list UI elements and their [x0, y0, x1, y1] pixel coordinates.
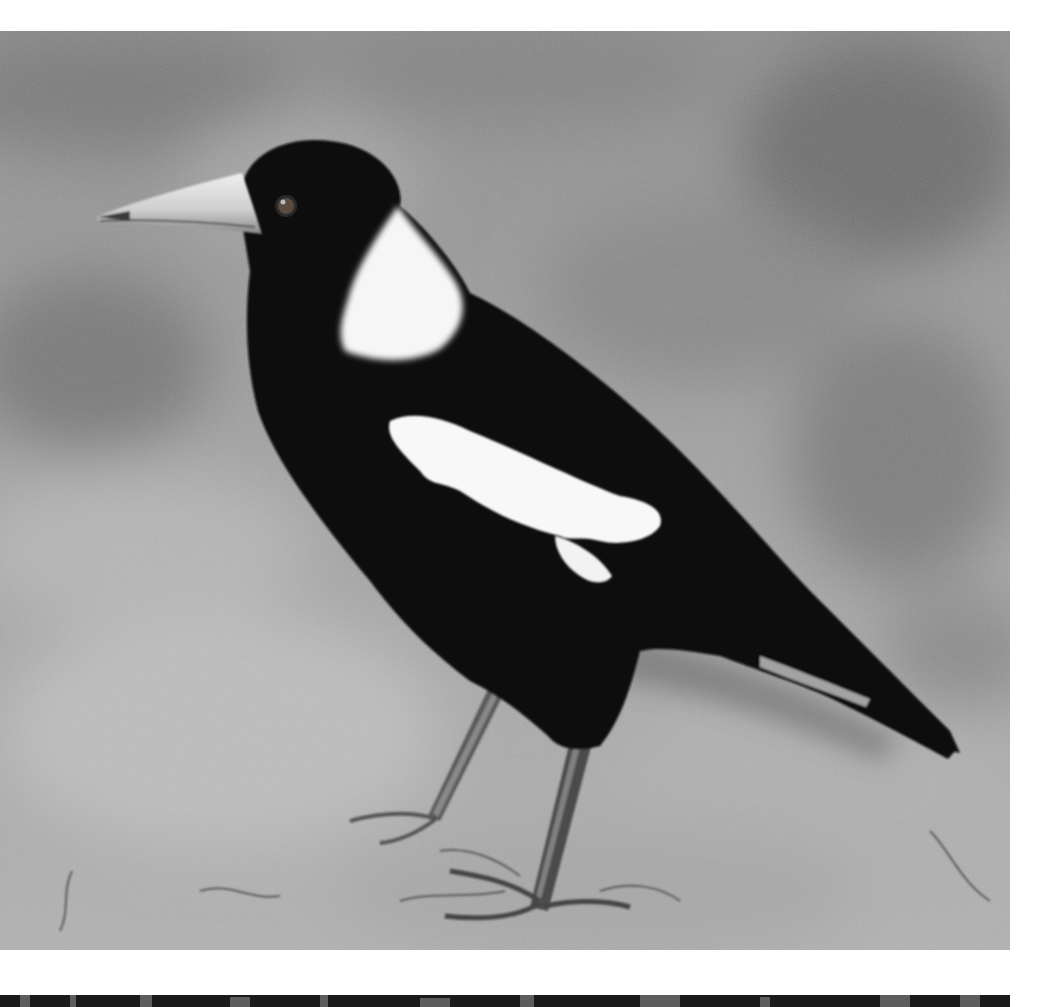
lower-photo-texture [0, 995, 1010, 1007]
magpie-eye [275, 195, 297, 217]
lower-photo-strip [0, 995, 1010, 1007]
magpie-photo [0, 31, 1010, 950]
magpie-illustration [0, 31, 1010, 950]
